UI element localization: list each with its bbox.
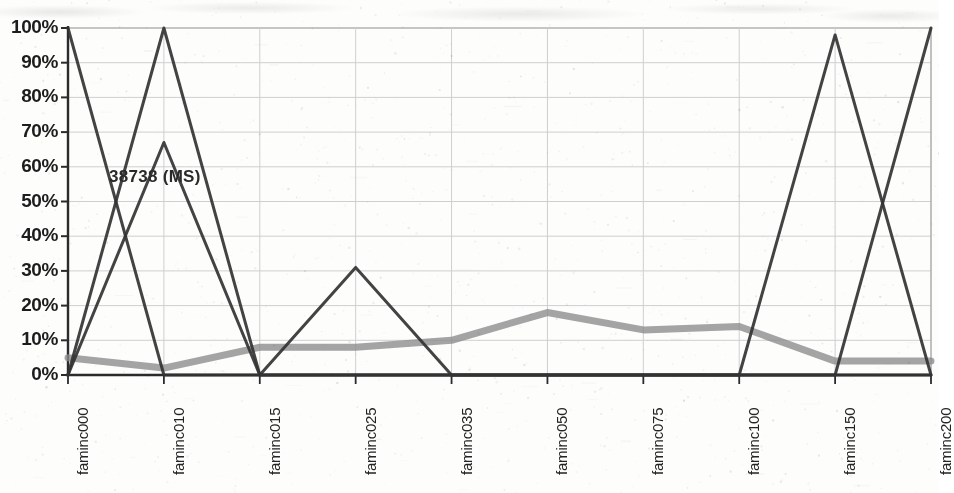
x-tick-label: faminc010 bbox=[170, 408, 187, 475]
y-tick-label: 90% bbox=[21, 51, 58, 73]
y-tick-label: 80% bbox=[21, 85, 58, 107]
y-tick-label: 50% bbox=[21, 190, 58, 212]
y-tick-label: 100% bbox=[11, 16, 58, 38]
y-tick-label: 60% bbox=[21, 155, 58, 177]
x-tick-label: faminc100 bbox=[745, 408, 762, 475]
x-tick-label: faminc150 bbox=[841, 408, 858, 475]
x-tick-label: faminc035 bbox=[458, 408, 475, 475]
x-tick-label: faminc200 bbox=[937, 408, 954, 475]
y-tick-label: 10% bbox=[21, 328, 58, 350]
y-tick-label: 40% bbox=[21, 224, 58, 246]
y-tick-label: 70% bbox=[21, 120, 58, 142]
x-tick-label: faminc000 bbox=[74, 408, 91, 475]
y-tick-label: 0% bbox=[31, 363, 58, 385]
x-tick-label: faminc075 bbox=[649, 408, 666, 475]
y-tick-label: 30% bbox=[21, 259, 58, 281]
x-tick-label: faminc015 bbox=[266, 408, 283, 475]
y-tick-label: 20% bbox=[21, 294, 58, 316]
data-annotation-label: 38738 (MS) bbox=[109, 167, 201, 187]
x-tick-label: faminc025 bbox=[362, 408, 379, 475]
x-tick-label: faminc050 bbox=[553, 408, 570, 475]
